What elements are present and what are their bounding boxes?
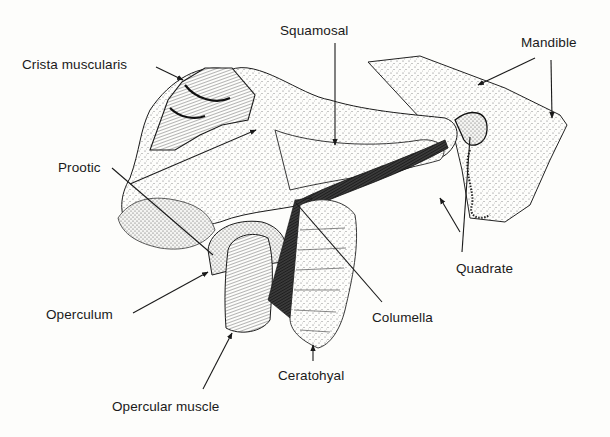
label-mandible: Mandible bbox=[521, 36, 577, 50]
label-prootic: Prootic bbox=[58, 161, 101, 175]
label-columella: Columella bbox=[372, 311, 433, 325]
label-quadrate: Quadrate bbox=[456, 262, 513, 276]
anatomical-illustration: Squamosal Mandible Crista muscularis Pro… bbox=[0, 0, 610, 437]
label-crista-muscularis: Crista muscularis bbox=[22, 58, 127, 72]
label-opercular-muscle: Opercular muscle bbox=[112, 400, 219, 414]
opercular-muscle-shape bbox=[225, 234, 272, 332]
label-squamosal: Squamosal bbox=[280, 24, 348, 38]
label-operculum: Operculum bbox=[46, 308, 113, 322]
ceratohyal-shape bbox=[290, 200, 357, 348]
label-ceratohyal: Ceratohyal bbox=[278, 369, 344, 383]
